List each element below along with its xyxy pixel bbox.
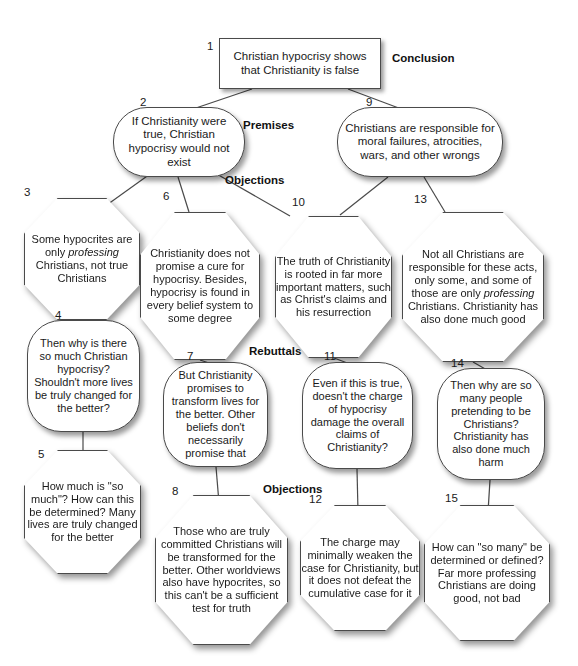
node-4-rebuttal-text: Then why is there so much Christian hypo… <box>28 337 139 415</box>
node-13-objection-number: 13 <box>414 193 427 205</box>
node-2-premise[interactable]: If Christianity were true, Christian hyp… <box>113 107 245 177</box>
node-6-objection-number: 6 <box>163 190 169 202</box>
edge-2-to-6 <box>178 177 189 212</box>
node-12-objection-text: The charge may minimally weaken the case… <box>301 536 419 601</box>
node-3-objection-shape: Some hypocrites are only professing Chri… <box>24 198 140 320</box>
edge-9-to-10 <box>340 177 388 215</box>
node-10-objection-text: The truth of Christianity is rooted in f… <box>276 255 391 320</box>
section-label-conclusion: Conclusion <box>392 52 455 64</box>
node-8-objection-text: Those who are truly committed Christians… <box>156 525 287 616</box>
section-label-objections-bottom: Objections <box>263 483 322 495</box>
node-9-premise-number: 9 <box>366 96 372 108</box>
node-15-objection-number: 15 <box>445 492 458 504</box>
section-label-premises: Premises <box>243 119 294 131</box>
node-8-objection-shape: Those who are truly committed Christians… <box>155 495 288 645</box>
node-8-objection[interactable]: Those who are truly committed Christians… <box>155 495 288 645</box>
edge-9-to-13 <box>424 177 445 212</box>
node-9-premise[interactable]: Christians are responsible for moral fai… <box>337 107 503 177</box>
node-4-rebuttal-number: 4 <box>55 309 61 321</box>
node-15-objection-shape: How can "so many" be determined or defin… <box>424 505 550 641</box>
node-15-objection-text: How can "so many" be determined or defin… <box>425 541 549 606</box>
node-12-objection-shape: The charge may minimally weaken the case… <box>300 505 420 631</box>
node-8-objection-number: 8 <box>172 485 178 497</box>
node-10-objection-number: 10 <box>292 196 305 208</box>
node-9-premise-text: Christians are responsible for moral fai… <box>338 122 502 163</box>
node-5-objection[interactable]: How much is "so much"? How can this be d… <box>24 450 141 574</box>
node-1-conclusion-number: 1 <box>207 40 213 52</box>
section-label-rebuttals: Rebuttals <box>249 345 301 357</box>
node-1-conclusion-text: Christian hypocrisy shows that Christian… <box>220 50 380 77</box>
node-3-objection-number: 3 <box>24 186 30 198</box>
node-1-conclusion[interactable]: Christian hypocrisy shows that Christian… <box>219 38 381 89</box>
node-7-rebuttal-number: 7 <box>187 350 193 362</box>
node-11-rebuttal[interactable]: Even if this is true, doesn't the charge… <box>302 362 413 469</box>
node-12-objection[interactable]: The charge may minimally weaken the case… <box>300 505 420 631</box>
node-6-objection-shape: Christianity does not promise a cure for… <box>140 212 260 360</box>
node-14-rebuttal-number: 14 <box>451 357 464 369</box>
node-6-objection[interactable]: Christianity does not promise a cure for… <box>140 212 260 360</box>
node-2-premise-number: 2 <box>140 96 146 108</box>
node-13-objection[interactable]: Not all Christians are responsible for t… <box>402 212 544 362</box>
node-13-objection-shape: Not all Christians are responsible for t… <box>402 212 544 362</box>
node-15-objection[interactable]: How can "so many" be determined or defin… <box>424 505 550 641</box>
node-13-objection-text: Not all Christians are responsible for t… <box>403 248 543 326</box>
node-14-rebuttal[interactable]: Then why are so many people pretending t… <box>437 368 545 480</box>
node-4-rebuttal[interactable]: Then why is there so much Christian hypo… <box>27 320 140 432</box>
node-5-objection-text: How much is "so much"? How can this be d… <box>25 480 140 545</box>
node-10-objection[interactable]: The truth of Christianity is rooted in f… <box>275 216 392 358</box>
node-7-rebuttal[interactable]: But Christianity promises to transform l… <box>163 362 268 467</box>
node-3-objection[interactable]: Some hypocrites are only professing Chri… <box>24 198 140 320</box>
section-label-objections-top: Objections <box>225 174 284 186</box>
argument-map-canvas: Christian hypocrisy shows that Christian… <box>0 0 578 666</box>
node-7-rebuttal-text: But Christianity promises to transform l… <box>164 369 267 460</box>
node-5-objection-shape: How much is "so much"? How can this be d… <box>24 450 141 574</box>
node-2-premise-text: If Christianity were true, Christian hyp… <box>114 115 244 169</box>
node-5-objection-number: 5 <box>38 448 44 460</box>
node-6-objection-text: Christianity does not promise a cure for… <box>141 247 259 325</box>
node-11-rebuttal-number: 11 <box>324 350 336 362</box>
node-11-rebuttal-text: Even if this is true, doesn't the charge… <box>303 377 412 455</box>
node-10-objection-shape: The truth of Christianity is rooted in f… <box>275 216 392 358</box>
node-14-rebuttal-text: Then why are so many people pretending t… <box>438 379 544 470</box>
node-3-objection-text: Some hypocrites are only professing Chri… <box>25 233 139 285</box>
